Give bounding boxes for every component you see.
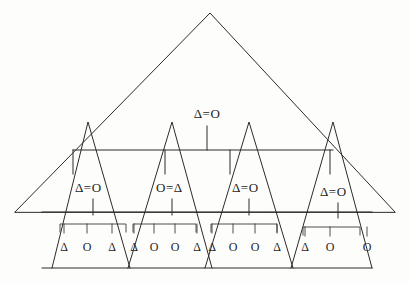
leaf-symbol: Δ (108, 240, 116, 254)
leaf-symbol: Δ (130, 240, 138, 254)
leaf-symbol: Δ (301, 240, 309, 254)
group-bracket (60, 224, 126, 233)
group-bracket (303, 227, 367, 236)
group-node-label: Δ=O (75, 180, 102, 195)
leaf-symbol: O (83, 240, 92, 254)
group-node-label: O=Δ (156, 180, 183, 195)
leaf-symbol: O (150, 240, 159, 254)
leaf-symbol: O (229, 240, 238, 254)
group-bracket (133, 224, 197, 233)
group-node-label: Δ=O (232, 180, 259, 195)
diagram-canvas: Δ=O Δ=O Δ O Δ O=Δ Δ O O Δ (0, 0, 410, 283)
leaf-symbol: Δ (193, 240, 201, 254)
leaf-symbol: O (251, 240, 260, 254)
group-bracket (211, 224, 277, 233)
group-3: Δ=O Δ O O Δ (205, 122, 293, 268)
figure-root: Δ=O Δ=O Δ O Δ O=Δ Δ O O Δ (0, 0, 410, 283)
leaf-symbol: Δ (273, 240, 281, 254)
leaf-symbol: Δ (208, 240, 216, 254)
level2-group: Δ=O (73, 106, 333, 174)
leaf-symbol: O (363, 240, 372, 254)
leaf-symbol: O (326, 240, 335, 254)
leaf-symbol: O (171, 240, 180, 254)
level2-node-label: Δ=O (194, 106, 221, 121)
leaf-symbol: Δ (60, 240, 68, 254)
group-1: Δ=O Δ O Δ (52, 122, 130, 268)
group-node-label: Δ=O (320, 184, 347, 199)
group-2: O=Δ Δ O O Δ (128, 122, 212, 268)
